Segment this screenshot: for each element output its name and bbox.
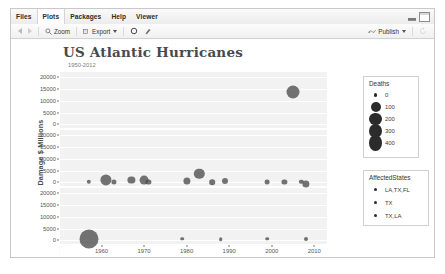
toolbar-divider: [38, 27, 39, 36]
legend-item-label: 400: [385, 140, 395, 146]
y-axis-tick-mark: [57, 228, 59, 229]
y-axis-tick-mark: [57, 76, 59, 77]
legend-title: AffectedStates: [364, 171, 428, 183]
export-icon: [83, 28, 90, 35]
legend-item-label: 100: [385, 104, 395, 110]
deaths-size-legend: Deaths 0100200300400: [363, 76, 419, 158]
magnifier-icon: [45, 28, 52, 35]
y-axis-tick-label: 5000: [43, 226, 56, 232]
clear-all-plots-button[interactable]: [141, 25, 155, 38]
tab-packages[interactable]: Packages: [65, 9, 106, 24]
forward-arrow-icon: [28, 28, 32, 34]
y-axis-tick-mark: [57, 182, 59, 183]
legend-item-label: 300: [385, 128, 395, 134]
legend-item: TX,LA: [364, 209, 428, 222]
x-axis-tick-label: 1960: [95, 248, 108, 254]
y-axis-tick-label: 20000: [40, 74, 56, 80]
legend-item-label: TX,LA: [385, 213, 401, 219]
legend-key-icon: [369, 188, 382, 191]
plots-pane: Files Plots Packages Help Viewer Zoom: [10, 8, 435, 258]
y-axis-tick-label: 20000: [40, 132, 56, 138]
y-axis-tick-mark: [57, 240, 59, 241]
y-axis-tick-mark: [57, 88, 59, 89]
data-point: [209, 179, 215, 185]
x-axis-tick-label: 1980: [180, 248, 193, 254]
legend-item-label: TX: [385, 200, 393, 206]
maximize-icon[interactable]: [419, 12, 430, 22]
x-axis-tick-label: 1970: [138, 248, 151, 254]
window-controls: [408, 12, 434, 22]
y-axis-tick-mark: [57, 146, 59, 147]
legend-item-label: 0: [385, 92, 388, 98]
facet-panel: 05000100001500020000TX,LA: [59, 188, 327, 244]
gridline-horizontal: [59, 159, 327, 160]
x-axis-tick-mark: [101, 245, 102, 247]
y-axis-tick-label: 20000: [40, 190, 56, 196]
y-axis-tick-label: 10000: [40, 214, 56, 220]
zoom-label: Zoom: [54, 28, 70, 35]
y-axis-tick-label: 5000: [43, 168, 56, 174]
minimize-icon[interactable]: [408, 13, 416, 21]
affected-states-legend: AffectedStates LA,TX,FLTXTX,LA: [363, 170, 429, 226]
tab-plots[interactable]: Plots: [37, 9, 66, 25]
y-axis-tick-label: 15000: [40, 86, 56, 92]
gridline-horizontal: [59, 124, 327, 125]
chevron-down-icon: [113, 30, 117, 33]
chevron-down-icon: [402, 30, 406, 33]
y-axis-tick-mark: [57, 124, 59, 125]
legend-item: 400: [364, 137, 418, 149]
legend-item: 0: [364, 89, 418, 101]
zoom-button[interactable]: Zoom: [42, 25, 73, 38]
gridline-horizontal: [59, 135, 327, 136]
gridline-horizontal: [59, 240, 327, 241]
legend-item-label: 200: [385, 116, 395, 122]
x-axis-label: Event Year: [56, 256, 321, 257]
tab-help[interactable]: Help: [106, 9, 131, 24]
legend-key-icon: [369, 214, 382, 217]
previous-plot-button[interactable]: [15, 25, 25, 38]
remove-plot-button[interactable]: [127, 25, 141, 38]
y-axis-tick-label: 15000: [40, 202, 56, 208]
data-point: [286, 86, 299, 99]
legend-item: 100: [364, 101, 418, 113]
data-point: [181, 237, 185, 241]
x-axis-tick-label: 2010: [308, 248, 321, 254]
data-point: [194, 169, 204, 179]
legend-item-label: LA,TX,FL: [385, 187, 410, 193]
publish-button[interactable]: Publish: [365, 25, 409, 38]
y-axis-tick-mark: [57, 158, 59, 159]
x-axis-tick-mark: [229, 245, 230, 247]
publish-icon: [368, 28, 376, 35]
data-point: [146, 180, 151, 185]
x-axis-tick-mark: [314, 245, 315, 247]
tab-viewer[interactable]: Viewer: [131, 9, 163, 24]
facet-panel: 05000100001500020000TX: [59, 130, 327, 186]
gridline-horizontal: [59, 171, 327, 172]
pane-tab-bar: Files Plots Packages Help Viewer: [11, 9, 434, 25]
gridline-horizontal: [59, 113, 327, 114]
x-axis-tick-mark: [144, 245, 145, 247]
next-plot-button[interactable]: [25, 25, 35, 38]
legend-key-icon: [369, 201, 382, 204]
back-arrow-icon: [18, 28, 22, 34]
data-point: [100, 174, 111, 185]
gridline-horizontal: [59, 205, 327, 206]
plot-canvas: US Atlantic Hurricanes 1950-2012 Damage …: [11, 40, 434, 257]
x-axis-tick-mark: [271, 245, 272, 247]
y-axis-tick-mark: [57, 216, 59, 217]
y-axis-tick-label: 0: [53, 179, 56, 185]
gridline-horizontal: [59, 229, 327, 230]
toolbar-divider: [76, 27, 77, 36]
y-axis-tick-mark: [57, 134, 59, 135]
y-axis-tick-label: 10000: [40, 156, 56, 162]
data-point: [282, 179, 287, 184]
refresh-button[interactable]: [416, 25, 430, 38]
chart-subtitle: 1950-2012: [68, 62, 96, 68]
tab-files[interactable]: Files: [11, 9, 37, 24]
y-axis-tick-mark: [57, 100, 59, 101]
export-button[interactable]: Export: [80, 25, 120, 38]
export-label: Export: [92, 28, 110, 35]
y-axis-tick-label: 5000: [43, 110, 56, 116]
x-axis-tick-label: 1990: [223, 248, 236, 254]
gridline-vertical-minor: [59, 244, 60, 257]
